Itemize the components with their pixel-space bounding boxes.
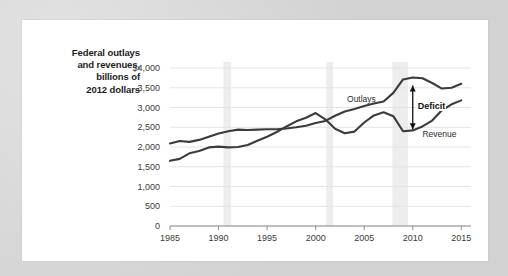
recession-2008-band (392, 62, 408, 226)
y-tick-label-0: 0 (112, 221, 160, 231)
deficit-arrow-head-bottom (410, 123, 416, 129)
y-tick-label-4000: $4,000 (112, 63, 160, 73)
y-tick-label-2500: 2,500 (112, 122, 160, 132)
y-axis-title-line-1: Federal outlays (36, 47, 140, 59)
x-tick-label-1985: 1985 (160, 233, 180, 243)
x-tick-label-2015: 2015 (451, 233, 471, 243)
x-tick-label-1990: 1990 (209, 233, 229, 243)
y-tick-label-500: 500 (112, 201, 160, 211)
recession-2001-band (326, 62, 333, 226)
chart-card: Federal outlays and revenues, billions o… (22, 20, 488, 261)
deficit-arrow-head-top (410, 85, 416, 91)
y-tick-label-3500: 3,500 (112, 83, 160, 93)
recession-1990-band (223, 62, 231, 226)
y-tick-label-1000: 1,000 (112, 182, 160, 192)
x-tick-label-2010: 2010 (403, 233, 423, 243)
y-tick-label-3000: 3,000 (112, 103, 160, 113)
y-tick-label-1500: 1,500 (112, 162, 160, 172)
x-tick-label-2005: 2005 (354, 233, 374, 243)
line-chart: Federal outlays and revenues, billions o… (22, 20, 488, 261)
x-tick-label-1995: 1995 (257, 233, 277, 243)
series-label-outlays: Outlays (347, 94, 376, 104)
x-tick-label-2000: 2000 (306, 233, 326, 243)
series-label-revenue: Revenue (422, 129, 456, 139)
deficit-annotation-label: Deficit (417, 101, 447, 111)
y-tick-label-2000: 2,000 (112, 142, 160, 152)
